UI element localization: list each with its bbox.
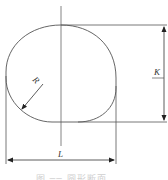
radius-leader-arrow — [22, 84, 43, 109]
figure-caption: 图 ── 圆形断面 — [36, 172, 107, 180]
diagram-canvas: R K L 图 ── 圆形断面 — [0, 0, 168, 180]
width-label: L — [58, 150, 63, 159]
section-drawing — [0, 0, 168, 180]
height-label: K — [154, 68, 160, 77]
